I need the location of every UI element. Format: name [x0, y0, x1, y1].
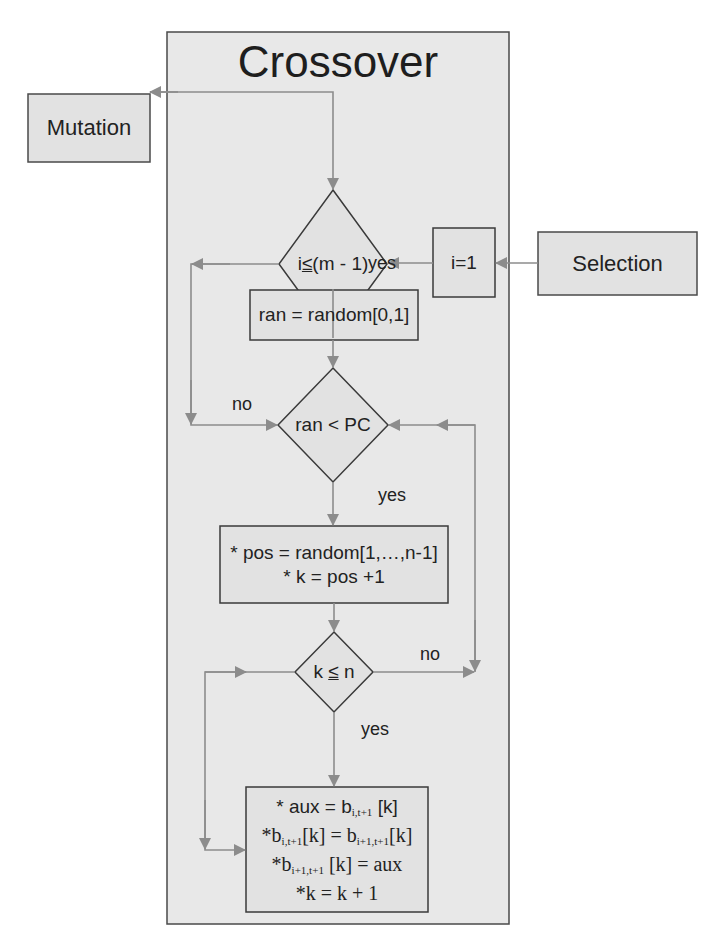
- random-draw-label: ran = random[0,1]: [250, 290, 418, 340]
- outer-cond-right: (m - 1): [312, 253, 368, 275]
- mutation-label: Mutation: [28, 94, 150, 162]
- k-cond-left: k: [313, 661, 323, 683]
- edge-label-yes-3: yes: [355, 718, 395, 740]
- edge-label-no-1: no: [222, 392, 262, 416]
- edge-label-yes-1: yes: [362, 252, 402, 274]
- position-line-1: * pos = random[1,…,n-1]: [230, 541, 438, 565]
- outer-cond-op: ≤: [302, 253, 312, 275]
- k-cond-op: ≤: [328, 661, 338, 683]
- selection-label: Selection: [538, 232, 697, 295]
- k-condition-label: k ≤ n: [300, 658, 368, 686]
- swap-line-3: *bi+1,t+1 [k] = aux: [272, 853, 403, 882]
- edge-label-no-2: no: [410, 642, 450, 666]
- swap-line-2: *bi,t+1[k] = bi+1,t+1[k]: [262, 824, 413, 853]
- k-cond-right: n: [344, 661, 355, 683]
- init-label: i=1: [433, 228, 495, 297]
- edge-label-yes-2: yes: [372, 484, 412, 506]
- diagram-title: Crossover: [167, 34, 509, 90]
- swap-label: * aux = bi,t+1 [k] *bi,t+1[k] = bi+1,t+1…: [246, 787, 428, 912]
- position-label: * pos = random[1,…,n-1] * k = pos +1: [220, 526, 448, 603]
- pc-condition-label: ran < PC: [283, 410, 383, 440]
- position-line-2: * k = pos +1: [283, 565, 384, 589]
- swap-line-1: * aux = bi,t+1 [k]: [276, 795, 397, 824]
- swap-line-4: *k = k + 1: [296, 882, 379, 905]
